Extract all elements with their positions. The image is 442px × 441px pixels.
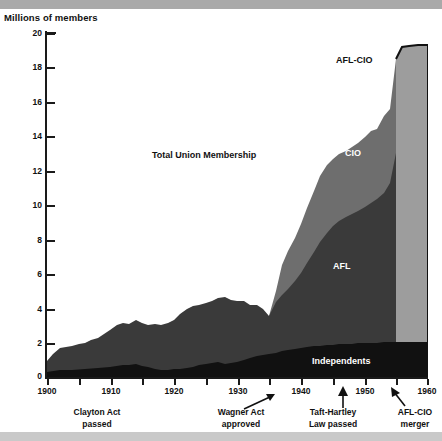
x-tick-1950 — [365, 379, 367, 385]
x-tick-1920 — [174, 379, 176, 385]
series-afl-cio — [396, 45, 428, 377]
x-label-1900: 1900 — [27, 386, 67, 396]
y-label-0: 0 — [16, 371, 42, 381]
x-label-1910: 1910 — [91, 386, 131, 396]
x-label-1960: 1960 — [407, 386, 442, 396]
x-tick-1945 — [333, 379, 335, 385]
label-afl-cio: AFL-CIO — [336, 55, 373, 65]
x-tick-1940 — [301, 379, 303, 385]
x-label-1930: 1930 — [218, 386, 258, 396]
y-tick-16 — [47, 102, 55, 104]
annotation-clayton-act-line1: Clayton Act — [49, 406, 145, 418]
y-label-16: 16 — [16, 97, 42, 107]
y-label-20: 20 — [16, 28, 42, 38]
annotation-afl-cio-merger: AFL-CIO merger — [367, 406, 442, 430]
y-label-10: 10 — [16, 200, 42, 210]
y-tick-6 — [47, 274, 55, 276]
y-tick-2 — [47, 343, 55, 345]
y-tick-12 — [47, 171, 55, 173]
x-tick-1935 — [269, 379, 271, 385]
y-label-12: 12 — [16, 166, 42, 176]
bottom-decor-band — [0, 432, 442, 441]
y-label-8: 8 — [16, 235, 42, 245]
annotation-wagner-act-line1: Wagner Act — [193, 406, 289, 418]
x-label-1950: 1950 — [345, 386, 385, 396]
y-label-18: 18 — [16, 62, 42, 72]
label-independents: Independents — [312, 356, 371, 366]
union-membership-chart: Millions of members 20 18 16 14 12 10 8 … — [0, 0, 442, 441]
area-series-svg — [47, 33, 428, 377]
x-tick-1960 — [427, 379, 429, 385]
annotation-clayton-act: Clayton Act passed — [49, 406, 145, 430]
y-tick-8 — [47, 240, 55, 242]
y-tick-10 — [47, 205, 55, 207]
y-tick-20 — [47, 33, 55, 35]
x-tick-1955 — [396, 379, 398, 385]
y-label-14: 14 — [16, 131, 42, 141]
x-label-1940: 1940 — [281, 386, 321, 396]
afl-cio-merger-arrow — [391, 387, 405, 406]
y-tick-4 — [47, 309, 55, 311]
plot-area — [47, 33, 428, 377]
x-axis-line — [45, 377, 428, 379]
y-label-2: 2 — [16, 338, 42, 348]
label-afl: AFL — [333, 261, 351, 271]
label-cio: CIO — [345, 148, 361, 158]
annotation-wagner-act: Wagner Act approved — [193, 406, 289, 430]
annotation-afl-cio-merger-line2: merger — [367, 418, 442, 430]
x-tick-1915 — [142, 379, 144, 385]
x-tick-1925 — [206, 379, 208, 385]
y-axis-title: Millions of members — [4, 12, 98, 23]
annotation-clayton-act-line2: passed — [49, 418, 145, 430]
y-label-4: 4 — [16, 304, 42, 314]
top-decor-band — [0, 0, 442, 9]
x-tick-1905 — [79, 379, 81, 385]
annotation-wagner-act-line2: approved — [193, 418, 289, 430]
label-total-union-membership: Total Union Membership — [152, 150, 256, 160]
x-tick-1930 — [238, 379, 240, 385]
annotation-afl-cio-merger-line1: AFL-CIO — [367, 406, 442, 418]
x-tick-1910 — [111, 379, 113, 385]
y-tick-18 — [47, 67, 55, 69]
y-label-6: 6 — [16, 269, 42, 279]
x-label-1920: 1920 — [154, 386, 194, 396]
y-tick-14 — [47, 136, 55, 138]
x-tick-1900 — [47, 379, 49, 385]
